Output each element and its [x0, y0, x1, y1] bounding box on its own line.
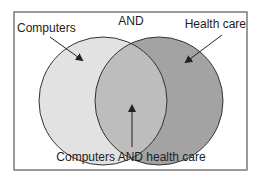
operator-label: AND: [118, 14, 144, 28]
venn-diagram: AND Computers Health care Computers AND …: [0, 0, 259, 180]
label-computers: Computers: [17, 21, 76, 35]
label-health-care: Health care: [185, 17, 247, 31]
label-intersection: Computers AND health care: [56, 150, 206, 164]
